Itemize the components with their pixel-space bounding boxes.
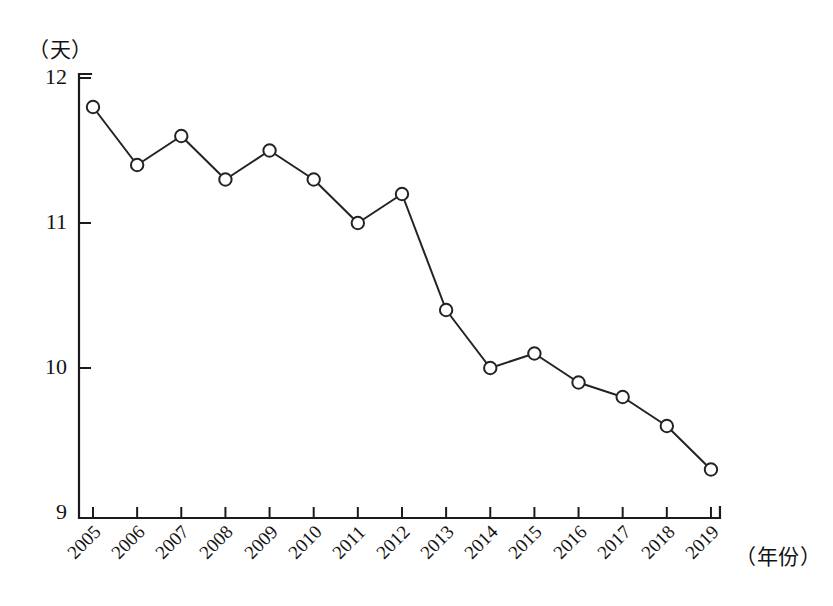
- data-point-marker: [484, 362, 496, 374]
- y-axis-ticks: [79, 78, 91, 368]
- data-point-marker: [440, 304, 452, 316]
- data-point-marker: [396, 188, 408, 200]
- data-point-marker: [308, 173, 320, 185]
- data-point-marker: [661, 420, 673, 432]
- line-chart: （天） （年份） 9101112 20052006200720082009201…: [0, 0, 833, 606]
- data-point-marker: [87, 101, 99, 113]
- data-point-markers: [87, 101, 717, 476]
- plot-area: [0, 0, 833, 606]
- data-point-marker: [131, 159, 143, 171]
- data-point-marker: [175, 130, 187, 142]
- series-line: [93, 107, 711, 470]
- x-axis-ticks: [93, 507, 711, 518]
- data-point-marker: [352, 217, 364, 229]
- data-point-marker: [616, 391, 628, 403]
- data-point-marker: [263, 144, 275, 156]
- data-point-marker: [528, 347, 540, 359]
- data-point-marker: [705, 463, 717, 475]
- data-point-marker: [219, 173, 231, 185]
- data-point-marker: [572, 376, 584, 388]
